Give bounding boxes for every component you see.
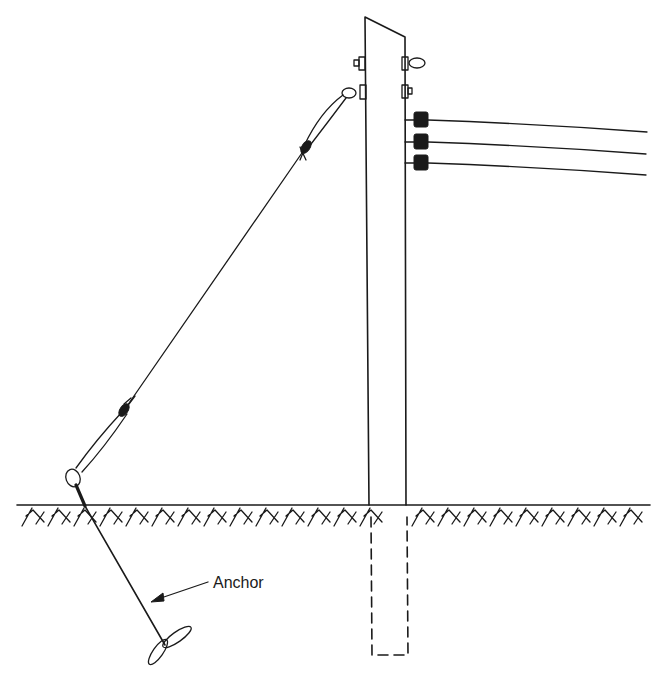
guy-wire <box>63 88 356 489</box>
anchor-helix <box>145 623 193 667</box>
pole-hardware <box>354 57 425 99</box>
anchor-label: Anchor <box>213 574 264 591</box>
crossarm-insulators <box>405 112 428 170</box>
utility-pole <box>365 17 406 505</box>
anchor-callout: Anchor <box>151 574 264 602</box>
pole-guy-anchor-diagram: Anchor <box>0 0 665 684</box>
anchor-rod <box>76 485 165 645</box>
conductor-lines <box>428 120 647 175</box>
soil-hatching <box>22 508 642 526</box>
pole-butt-below-ground <box>371 517 408 655</box>
